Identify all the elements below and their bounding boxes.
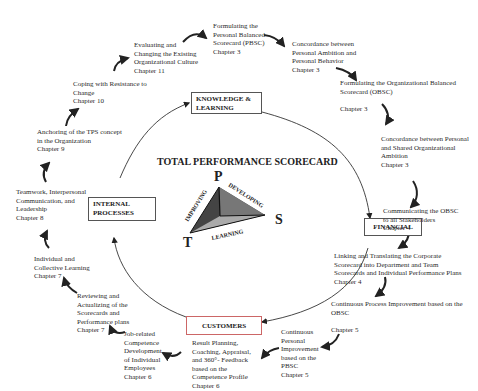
step-communicating: Communicating the OBSC to all Stakeholde… bbox=[383, 207, 458, 233]
step-job-related: Job-related Competence Development of In… bbox=[124, 330, 162, 382]
step-cpi: Continuous Process Improvement based on … bbox=[331, 300, 463, 334]
step-culture: Evaluating and Changing the Existing Org… bbox=[134, 41, 198, 75]
step-result-planning: Result Planning, Coaching, Appraisal, an… bbox=[192, 339, 251, 391]
step-teamwork: Teamwork, Interpersonal Communication, a… bbox=[16, 188, 86, 222]
step-anchoring: Anchoring of the TPS concept in the Orga… bbox=[37, 128, 122, 154]
diagram-title: TOTAL PERFORMANCE SCORECARD bbox=[157, 156, 338, 167]
vertex-s: S bbox=[275, 212, 283, 228]
step-concordance-personal: Concordance between Personal Ambition an… bbox=[292, 40, 356, 74]
step-obsc: Formulating the Organizational Balanced … bbox=[340, 79, 456, 113]
perspective-knowledge-learning: KNOWLEDGE & LEARNING bbox=[191, 92, 262, 114]
perspective-internal-processes: INTERNAL PROCESSES bbox=[88, 197, 156, 221]
step-linking: Linking and Translating the Corporate Sc… bbox=[334, 252, 462, 286]
step-continuous-personal: Continuous Personal Improvement based on… bbox=[281, 328, 319, 380]
step-individual-learning: Individual and Collective Learning Chapt… bbox=[34, 255, 90, 281]
step-resistance: Coping with Resistance to Change Chapter… bbox=[73, 80, 147, 106]
perspective-customers: CUSTOMERS bbox=[186, 316, 262, 335]
vertex-p: P bbox=[214, 169, 223, 185]
step-pbsc: Formulating the Personal Balanced Scorec… bbox=[213, 22, 265, 56]
vertex-t: T bbox=[183, 235, 192, 251]
tps-pyramid: IMPROVING DEVELOPING LEARNING bbox=[184, 182, 265, 241]
svg-text:LEARNING: LEARNING bbox=[211, 228, 244, 241]
step-concordance-shared: Concordance between Personal and Shared … bbox=[381, 135, 469, 169]
step-reviewing: Reviewing and Actualizing of the Scoreca… bbox=[77, 292, 129, 335]
